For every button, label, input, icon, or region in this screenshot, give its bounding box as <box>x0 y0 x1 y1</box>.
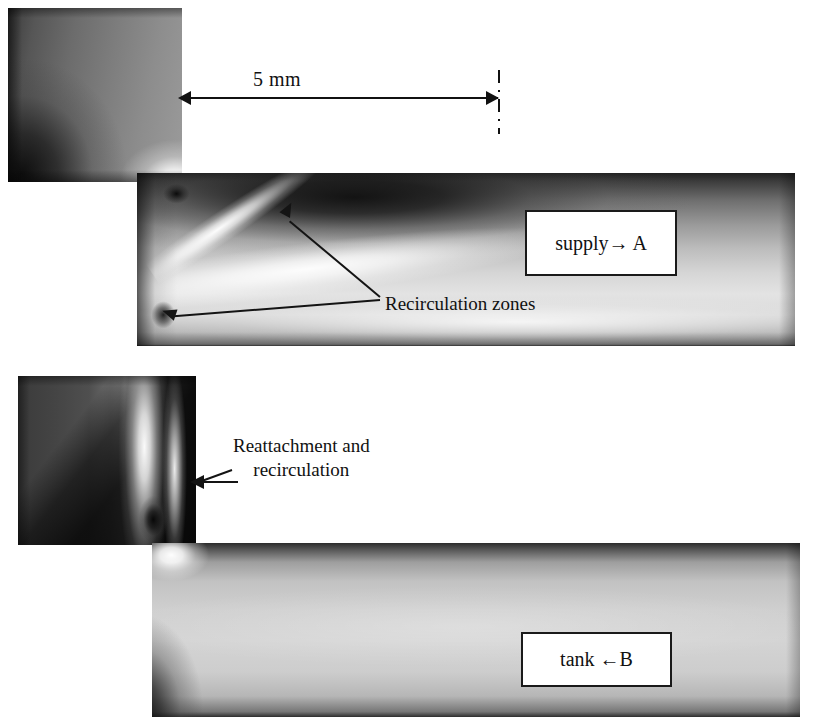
reattachment-label: Reattachment and recirculation <box>233 434 370 481</box>
reattachment-arrow-icon <box>190 475 204 489</box>
top-channel-field <box>137 173 795 346</box>
dimension-label: 5 mm <box>253 68 301 91</box>
reattachment-leader-horizontal <box>200 481 238 483</box>
tank-port-label-box: tank ←B <box>521 632 672 687</box>
bottom-inlet-vignette <box>18 376 196 545</box>
reattachment-label-line2: recirculation <box>233 458 370 482</box>
tank-port-label-text: tank ←B <box>560 648 633 671</box>
supply-port-label-box: supply→ A <box>525 210 677 276</box>
recirculation-zones-label: Recirculation zones <box>385 292 535 316</box>
dimension-arrow-left-icon <box>178 91 191 105</box>
dimension-reference-tick <box>498 70 500 134</box>
supply-port-label-text: supply→ A <box>555 232 647 255</box>
top-channel-vignette <box>137 173 795 346</box>
bottom-channel-field <box>152 543 800 717</box>
bottom-inlet-block-field <box>18 376 196 545</box>
bottom-channel-vignette <box>152 543 800 717</box>
top-inlet-block-field <box>8 8 182 182</box>
top-inlet-vignette <box>8 8 182 182</box>
dimension-line <box>180 97 498 99</box>
flow-visualization-figure: 5 mm Recirculation zones supply→ A <box>0 0 819 727</box>
reattachment-label-line1: Reattachment and <box>233 434 370 458</box>
